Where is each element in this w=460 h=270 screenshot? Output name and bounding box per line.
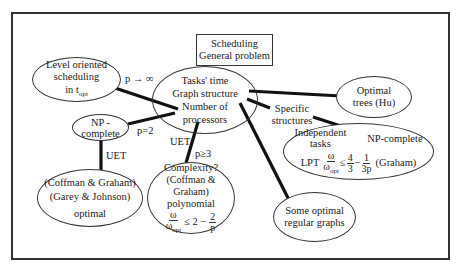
center-line3: Number of <box>182 100 228 113</box>
frac-den-sub: opt <box>172 226 181 234</box>
level-line3-text: in t <box>65 84 79 95</box>
root-line2: General problem <box>199 50 270 63</box>
coffman-optimal-node: (Coffman & Graham) (Garey & Johnson) opt… <box>37 169 143 227</box>
lpt-frac-den-sub: opt <box>330 167 339 175</box>
specific-line2: structures <box>272 115 313 127</box>
coffman-line2: (Garey & Johnson) <box>50 190 130 204</box>
center-line4: processors <box>183 113 227 126</box>
level-line2: scheduling <box>54 71 100 84</box>
np-complete-node: NP - complete <box>72 114 129 141</box>
complexity-line2: (Coffman & Graham) <box>148 174 234 198</box>
lpt-fraction: ω ωopt <box>323 151 339 176</box>
frac2-den: p <box>210 223 215 233</box>
complexity-fraction: ω ωopt <box>166 210 182 235</box>
regular-graphs-node: Some optimal regular graphs <box>273 192 356 242</box>
center-line1: Tasks' time <box>182 74 229 87</box>
lpt-fraction3: 1 3p <box>362 153 372 174</box>
lpt-frac2-den: 3 <box>348 164 353 174</box>
lpt-fraction2: 4 3 <box>347 153 354 174</box>
edge-center-trees <box>249 91 341 96</box>
independent-line1: Independent <box>294 127 346 138</box>
lpt-minus: − <box>355 157 361 170</box>
lpt-frac3-den: 3p <box>362 164 372 174</box>
regular-line2: regular graphs <box>284 217 344 230</box>
complexity-ineq: ≤ 2 − <box>184 216 206 228</box>
coffman-line3: optimal <box>74 207 106 221</box>
lpt-cite: (Graham) <box>376 157 417 170</box>
independent-line2: tasks <box>310 138 331 149</box>
level-line3: in topt <box>65 84 88 101</box>
edge-label-p-infinity: p → ∞ <box>125 73 154 85</box>
trees-line2: trees (Hu) <box>353 97 395 110</box>
independent-label: Independent tasks <box>294 127 346 149</box>
frac-den: ωopt <box>166 221 182 235</box>
lpt-label: LPT <box>301 157 320 170</box>
edge-label-p3: p≥3 <box>195 148 211 160</box>
optimal-trees-node: Optimal trees (Hu) <box>336 76 412 118</box>
edge-label-uet-left: UET <box>106 150 126 162</box>
lpt-frac-den-text: ω <box>323 161 330 172</box>
level-line3-sub: opt <box>79 90 88 98</box>
edge-label-p2: p=2 <box>137 125 153 137</box>
complexity-line1: Complexity? <box>164 162 218 174</box>
np-line1: NP - <box>91 117 110 128</box>
independent-tasks-node: Independent tasks NP-complete LPT ω ωopt… <box>283 123 434 180</box>
root-node-general-problem: Scheduling General problem <box>196 34 273 66</box>
scheduling-diagram: Scheduling General problem Tasks' time G… <box>0 0 460 270</box>
specific-structures-label: Specific structures <box>266 102 318 128</box>
lpt-frac-den: ωopt <box>323 162 339 176</box>
complexity-formula: ω ωopt ≤ 2 − 2 p <box>165 210 218 235</box>
level-line1: Level oriented <box>46 59 107 72</box>
level-oriented-node: Level oriented scheduling in topt <box>32 57 121 102</box>
np-line2: complete <box>81 128 119 139</box>
lpt-leq: ≤ <box>340 157 346 170</box>
independent-top-row: Independent tasks NP-complete <box>284 127 433 149</box>
center-node: Tasks' time Graph structure Number of pr… <box>152 66 258 134</box>
specific-line1: Specific <box>275 103 309 115</box>
root-line1: Scheduling <box>211 38 258 51</box>
regular-line1: Some optimal <box>285 205 344 218</box>
edge-label-uet-center: UET <box>170 136 190 148</box>
trees-line1: Optimal <box>357 85 391 98</box>
complexity-node: Complexity? (Coffman & Graham) polynomia… <box>147 162 235 234</box>
complexity-fraction2: 2 p <box>209 212 216 233</box>
coffman-line1: (Coffman & Graham) <box>44 176 135 190</box>
center-line2: Graph structure <box>172 87 238 100</box>
complexity-line3: polynomial <box>167 198 215 210</box>
frac2-num: 2 <box>209 212 216 223</box>
lpt-formula: LPT ω ωopt ≤ 4 3 − 1 3p (Graham) <box>284 151 433 176</box>
independent-np-complete: NP-complete <box>367 133 422 144</box>
